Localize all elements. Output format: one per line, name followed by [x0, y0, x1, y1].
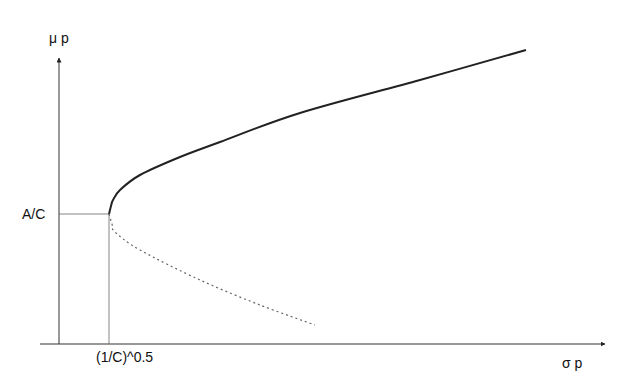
- frontier-solid-curve: [109, 50, 526, 214]
- x-tick-label: (1/C)^0.5: [96, 349, 153, 365]
- chart: μ p σ p A/C (1/C)^0.5: [0, 0, 619, 392]
- y-tick-label: A/C: [22, 206, 45, 222]
- x-axis-label: σ p: [562, 355, 583, 371]
- y-axis-label: μ p: [49, 30, 69, 46]
- frontier-dotted-curve: [109, 214, 315, 325]
